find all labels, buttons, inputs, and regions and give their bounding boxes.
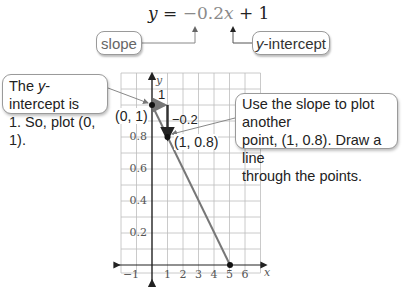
left-callout-line2: 1. So, plot (0, 1). [9,113,101,149]
right-callout-line1: Use the slope to plot another [242,95,391,131]
intercept-text: -intercept [263,35,326,52]
svg-text:0.8: 0.8 [130,130,148,143]
svg-text:0.2: 0.2 [130,226,148,239]
right-callout: Use the slope to plot another point, (1,… [235,93,398,149]
point-5-0 [227,262,233,268]
right-callout-line2: point, (1, 0.8). Draw a line [242,131,391,167]
y-axis-label: y [155,74,163,87]
point-b-label: (1, 0.8) [174,134,218,150]
svg-text:4: 4 [211,268,218,281]
point-0-1 [149,102,155,108]
x-axis-label: x [264,266,271,279]
left-callout: The y-intercept is 1. So, plot (0, 1). [2,74,108,114]
slope-connector [142,29,195,43]
y-intercept-label: y-intercept [252,31,330,55]
point-a-label: (0, 1) [115,108,148,124]
left-callout-line1: The y-intercept is [9,77,101,113]
svg-text:2: 2 [180,268,187,281]
svg-text:1: 1 [164,268,171,281]
intercept-connector [233,29,252,43]
rise-label: −0.2 [172,112,198,127]
svg-text:0.4: 0.4 [130,194,148,207]
x-tick-labels: −1 1 2 3 4 5 6 [123,268,249,281]
run-label: 1 [158,87,165,102]
y-italic: y [256,35,264,52]
left-callout-pointer [108,88,148,103]
svg-text:6: 6 [242,268,249,281]
svg-text:3: 3 [195,268,202,281]
point-1-0.8 [165,134,171,140]
right-callout-line3: through the points. [242,167,391,185]
svg-text:5: 5 [226,268,233,281]
svg-text:0.6: 0.6 [130,162,148,175]
svg-text:−1: −1 [123,268,139,281]
slope-label: slope [96,31,142,55]
y-tick-labels: 0.8 0.6 0.4 0.2 [130,130,148,239]
